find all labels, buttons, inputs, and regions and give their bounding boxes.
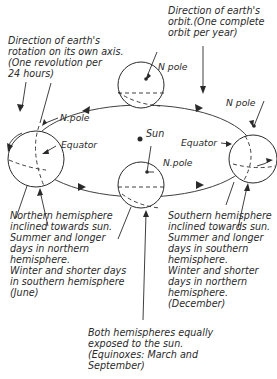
svg-text:Winter and shorter days: Winter and shorter days	[10, 265, 126, 276]
rotation-caption: Direction of earth's rotation on its own…	[8, 35, 123, 79]
june-caption: Northern hemisphere inclined towards sun…	[10, 210, 126, 298]
globe-left	[7, 83, 64, 226]
svg-text:exposed to the sun.: exposed to the sun.	[88, 338, 183, 349]
svg-text:orbit per year): orbit per year)	[168, 27, 238, 38]
svg-text:September): September)	[88, 360, 145, 371]
svg-text:(June): (June)	[10, 287, 38, 298]
svg-text:rotation on its own axis.: rotation on its own axis.	[8, 46, 123, 57]
svg-text:Direction of earth's: Direction of earth's	[168, 5, 260, 16]
equator-left-label: Equator	[61, 139, 98, 150]
svg-text:hemisphere.: hemisphere.	[168, 287, 228, 298]
svg-text:Direction of earth's: Direction of earth's	[8, 35, 100, 46]
globe-right	[221, 101, 277, 228]
svg-text:Southern hemisphere: Southern hemisphere	[168, 210, 272, 221]
svg-text:(Equinoxes: March and: (Equinoxes: March and	[88, 349, 199, 360]
n-pole-left-label: N.pole	[60, 112, 90, 123]
svg-text:inclined towards sun.: inclined towards sun.	[10, 221, 112, 232]
svg-text:days in northern: days in northern	[168, 276, 247, 287]
orbit-caption: Direction of earth's orbit.(One complete…	[168, 5, 265, 38]
svg-text:Summer and longer: Summer and longer	[10, 232, 106, 243]
svg-text:days in northern: days in northern	[10, 243, 89, 254]
svg-text:Summer and longer: Summer and longer	[168, 232, 264, 243]
n-pole-bottom-label: N.pole	[163, 157, 193, 168]
n-pole-top-label: N pole	[158, 61, 188, 72]
svg-text:days in southern: days in southern	[168, 243, 248, 254]
equator-right-label: Equator	[181, 137, 218, 148]
orbit-arrow-bottom-right-icon	[196, 181, 204, 189]
n-pole-right-label: N pole	[226, 97, 256, 108]
svg-text:Winter and shorter: Winter and shorter	[168, 265, 260, 276]
orbit-arrow-top-right-icon	[195, 104, 203, 112]
svg-text:(December): (December)	[168, 298, 225, 309]
svg-text:hemisphere.: hemisphere.	[168, 254, 228, 265]
svg-text:Both hemispheres equally: Both hemispheres equally	[88, 327, 214, 338]
svg-text:(One revolution per: (One revolution per	[8, 57, 103, 68]
svg-text:hemisphere.: hemisphere.	[10, 254, 70, 265]
sun-icon	[138, 137, 143, 142]
svg-text:24 hours): 24 hours)	[8, 68, 54, 79]
svg-text:orbit.(One complete: orbit.(One complete	[168, 16, 265, 27]
equinox-caption: Both hemispheres equally exposed to the …	[88, 327, 214, 371]
earth-orbit-diagram: Sun N pole N.pole Equator	[0, 0, 277, 379]
sun-label: Sun	[146, 128, 164, 139]
svg-text:Northern hemisphere: Northern hemisphere	[10, 210, 113, 221]
svg-text:inclined towards sun.: inclined towards sun.	[168, 221, 270, 232]
december-caption: Southern hemisphere inclined towards sun…	[168, 210, 272, 309]
svg-text:in southern hemisphere: in southern hemisphere	[10, 276, 125, 287]
globe-bottom	[118, 146, 164, 320]
